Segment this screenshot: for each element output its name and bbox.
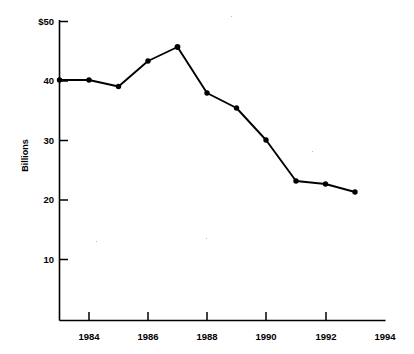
axis-lines (60, 20, 386, 321)
scan-speck (231, 16, 232, 17)
y-axis-ticks (60, 22, 69, 260)
data-point-1987 (175, 44, 181, 50)
data-point-1986 (145, 58, 150, 63)
scan-speck (96, 241, 97, 242)
scan-speck (312, 151, 313, 152)
data-point-1992 (323, 181, 328, 186)
data-point-1985 (116, 84, 121, 89)
x-axis-ticks (89, 312, 326, 321)
data-point-1989 (234, 105, 239, 110)
data-line-billions (60, 47, 356, 192)
chart-container: Billions $50 40 30 20 10 1984 1986 1988 … (0, 0, 414, 354)
scan-speck (206, 238, 207, 239)
plot-area (0, 0, 414, 354)
data-point-1988 (204, 90, 209, 95)
data-point-1983 (57, 77, 62, 82)
data-markers (57, 44, 358, 195)
data-point-1993 (352, 189, 357, 194)
data-point-1990 (263, 137, 268, 142)
data-point-1984 (86, 77, 91, 82)
data-point-1991 (293, 178, 298, 183)
